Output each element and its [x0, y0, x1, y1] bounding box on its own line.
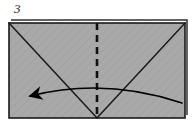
- origami-figure: [0, 0, 192, 129]
- origami-step-diagram: 3: [0, 0, 192, 129]
